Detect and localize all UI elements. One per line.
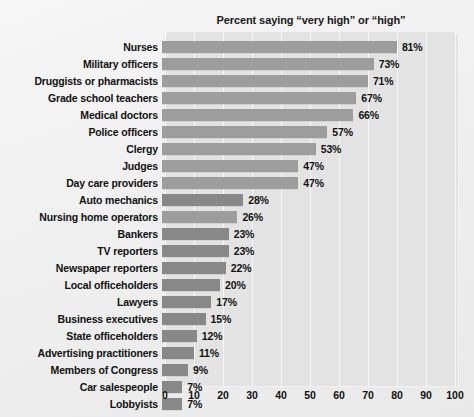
bar-category-label: Car salespeople [0, 381, 162, 393]
bar-category-label: Auto mechanics [0, 194, 162, 206]
x-axis: 0102030405060708090100 [163, 389, 459, 405]
bar-value-label: 20% [225, 279, 246, 291]
bar-row: Nurses81% [0, 38, 474, 55]
bar-value-label: 11% [199, 347, 219, 359]
bar-track: 57% [162, 123, 474, 140]
bar-row: Bankers23% [0, 225, 474, 242]
bar-value-label: 23% [234, 245, 255, 257]
bar-value-label: 53% [321, 143, 342, 155]
bar-value-label: 73% [379, 58, 400, 70]
bar-row: Local officeholders20% [0, 276, 474, 293]
chart-container: Percent saying “very high” or “high” Nur… [0, 0, 474, 417]
bar [162, 211, 237, 223]
bar-track: 22% [162, 259, 474, 276]
x-tick-label: 80 [391, 389, 403, 401]
bar-value-label: 22% [231, 262, 252, 274]
bar [162, 245, 229, 257]
bar [162, 143, 316, 155]
bar-track: 17% [162, 293, 474, 310]
bar-value-label: 9% [193, 364, 208, 376]
bar [162, 279, 220, 291]
bar-track: 20% [162, 276, 474, 293]
bar-category-label: Clergy [0, 143, 162, 155]
bar-track: 66% [162, 106, 474, 123]
bar-row: Members of Congress9% [0, 361, 474, 378]
bar-track: 53% [162, 140, 474, 157]
bar-category-label: Business executives [0, 313, 162, 325]
bar-category-label: TV reporters [0, 245, 162, 257]
bar-value-label: 26% [242, 211, 263, 223]
bar [162, 177, 298, 189]
bar-row: Nursing home operators26% [0, 208, 474, 225]
bar-category-label: Local officeholders [0, 279, 162, 291]
bar-track: 73% [162, 55, 474, 72]
bar-category-label: Newspaper reporters [0, 262, 162, 274]
x-tick-label: 10 [188, 389, 200, 401]
x-tick-label: 50 [304, 389, 316, 401]
bar-category-label: Lawyers [0, 296, 162, 308]
x-tick-label: 60 [333, 389, 345, 401]
bar-row: Day care providers47% [0, 174, 474, 191]
bar-value-label: 47% [303, 177, 324, 189]
bar-row: Business executives15% [0, 310, 474, 327]
bar-category-label: Judges [0, 160, 162, 172]
bar-row: Druggists or pharmacists71% [0, 72, 474, 89]
bar [162, 347, 194, 359]
bar-track: 28% [162, 191, 474, 208]
bar-row: State officeholders12% [0, 327, 474, 344]
bar-value-label: 23% [234, 228, 255, 240]
bar-row: Newspaper reporters22% [0, 259, 474, 276]
bar-track: 23% [162, 242, 474, 259]
bar-row: TV reporters23% [0, 242, 474, 259]
bar-category-label: Grade school teachers [0, 92, 162, 104]
bar-row: Auto mechanics28% [0, 191, 474, 208]
bar-value-label: 57% [332, 126, 353, 138]
bar [162, 296, 211, 308]
bar [162, 75, 368, 87]
bar-category-label: Nurses [0, 41, 162, 53]
x-tick-label: 40 [275, 389, 287, 401]
bar-track: 47% [162, 174, 474, 191]
bar-track: 81% [162, 38, 474, 55]
bar [162, 228, 229, 240]
bar-row: Military officers73% [0, 55, 474, 72]
bar-category-label: Bankers [0, 228, 162, 240]
bar-track: 11% [162, 344, 474, 361]
bar [162, 194, 243, 206]
bar-value-label: 67% [361, 92, 382, 104]
chart-title: Percent saying “very high” or “high” [163, 14, 459, 26]
bar [162, 126, 327, 138]
bar-category-label: Advertising practitioners [0, 347, 162, 359]
bar-row: Medical doctors66% [0, 106, 474, 123]
x-tick-label: 0 [162, 389, 168, 401]
bar [162, 41, 397, 53]
bar-category-label: Lobbyists [0, 398, 162, 410]
bar-value-label: 15% [211, 313, 232, 325]
bar-row: Grade school teachers67% [0, 89, 474, 106]
bar-category-label: State officeholders [0, 330, 162, 342]
bar-row: Advertising practitioners11% [0, 344, 474, 361]
bar-track: 47% [162, 157, 474, 174]
bar-value-label: 12% [202, 330, 223, 342]
bar-track: 26% [162, 208, 474, 225]
bar-category-label: Druggists or pharmacists [0, 75, 162, 87]
bar-category-label: Police officers [0, 126, 162, 138]
bar-track: 9% [162, 361, 474, 378]
bar-track: 15% [162, 310, 474, 327]
bar [162, 330, 197, 342]
bar-category-label: Members of Congress [0, 364, 162, 376]
bar-category-label: Medical doctors [0, 109, 162, 121]
bar-rows: Nurses81%Military officers73%Druggists o… [0, 38, 474, 412]
x-tick-label: 30 [246, 389, 258, 401]
bar-track: 12% [162, 327, 474, 344]
bar-row: Judges47% [0, 157, 474, 174]
bar-track: 67% [162, 89, 474, 106]
x-tick-label: 90 [420, 389, 432, 401]
bar [162, 160, 298, 172]
x-tick-label: 100 [446, 389, 464, 401]
bar [162, 58, 374, 70]
bar [162, 262, 226, 274]
bar-category-label: Day care providers [0, 177, 162, 189]
bar-value-label: 81% [402, 41, 423, 53]
bar-value-label: 17% [216, 296, 237, 308]
